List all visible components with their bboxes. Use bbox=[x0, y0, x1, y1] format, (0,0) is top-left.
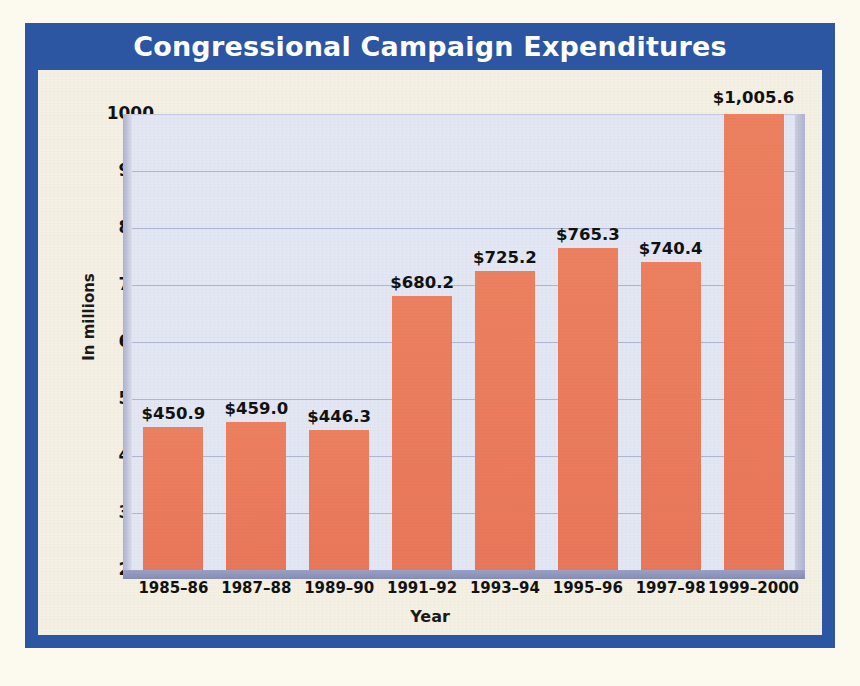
gridline bbox=[132, 171, 795, 172]
x-axis-tick: 1987–88 bbox=[209, 579, 304, 597]
x-axis-tick: 1989–90 bbox=[292, 579, 387, 597]
plot-area bbox=[132, 114, 795, 570]
bar-value-label: $680.2 bbox=[376, 273, 468, 292]
chart-title: Congressional Campaign Expenditures bbox=[133, 31, 727, 62]
bar[interactable] bbox=[558, 248, 618, 570]
figure-frame: Congressional Campaign Expenditures In m… bbox=[25, 23, 835, 648]
gridline bbox=[132, 228, 795, 229]
chart-panel: In millions 1000900800700600500400300200… bbox=[38, 70, 822, 635]
x-axis-tick: 1995–96 bbox=[540, 579, 635, 597]
bar-value-label: $459.0 bbox=[210, 399, 302, 418]
bar[interactable] bbox=[143, 427, 203, 570]
bar[interactable] bbox=[724, 114, 784, 570]
bar-value-label: $725.2 bbox=[459, 248, 551, 267]
plot-border-bottom bbox=[123, 570, 805, 579]
bar[interactable] bbox=[226, 422, 286, 570]
title-band: Congressional Campaign Expenditures bbox=[25, 23, 835, 70]
x-axis-tick: 1985–86 bbox=[126, 579, 221, 597]
bar-value-label: $765.3 bbox=[542, 225, 634, 244]
page-background: Congressional Campaign Expenditures In m… bbox=[0, 0, 860, 686]
x-axis-tick: 1997–98 bbox=[623, 579, 718, 597]
plot-border-left bbox=[123, 114, 132, 570]
bar[interactable] bbox=[392, 296, 452, 570]
gridline bbox=[132, 114, 795, 115]
x-axis-tick: 1999–2000 bbox=[706, 579, 801, 597]
x-axis-title: Year bbox=[38, 607, 822, 626]
bar-value-label: $1,005.6 bbox=[708, 88, 800, 107]
bar-value-label: $450.9 bbox=[127, 404, 219, 423]
bar[interactable] bbox=[475, 271, 535, 570]
bar-value-label: $446.3 bbox=[293, 407, 385, 426]
x-axis-tick: 1991–92 bbox=[375, 579, 470, 597]
bar-value-label: $740.4 bbox=[625, 239, 717, 258]
plot-border-right bbox=[795, 114, 805, 570]
bar[interactable] bbox=[641, 262, 701, 570]
x-axis-tick: 1993–94 bbox=[458, 579, 553, 597]
bar[interactable] bbox=[309, 430, 369, 570]
y-axis-title: In millions bbox=[80, 257, 98, 377]
